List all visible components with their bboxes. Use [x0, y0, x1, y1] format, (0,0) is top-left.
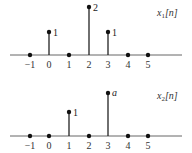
value-label: a	[112, 87, 117, 98]
tick-label: 4	[126, 59, 131, 70]
value-label: 1	[53, 27, 58, 38]
sample-dot	[106, 91, 110, 95]
sample-dot	[47, 134, 51, 138]
tick-label: 5	[146, 140, 151, 151]
tick-label: −1	[25, 59, 36, 70]
value-label: 2	[93, 2, 98, 13]
signals-diagram: 1 2 1 −1 0 1 2 3 4 5 x1[n] 1 a −1 0 1 2 …	[0, 0, 192, 153]
tick-label: 1	[67, 59, 72, 70]
sample-dot	[146, 134, 150, 138]
tick-label: 1	[67, 140, 72, 151]
tick-label: 4	[126, 140, 131, 151]
tick-label: 0	[47, 140, 52, 151]
sample-dot	[126, 134, 130, 138]
sample-dot	[106, 30, 110, 34]
tick-label: 5	[146, 59, 151, 70]
signal-label: x1[n]	[156, 7, 178, 20]
sample-dot	[146, 53, 150, 57]
sample-dot	[28, 53, 32, 57]
sample-dot	[87, 5, 91, 9]
tick-label: 0	[47, 59, 52, 70]
tick-label: 2	[87, 140, 92, 151]
tick-label: 3	[106, 59, 111, 70]
tick-label: −1	[25, 140, 36, 151]
signal-label: x2[n]	[156, 90, 178, 103]
tick-label: 2	[87, 59, 92, 70]
value-label: 1	[73, 107, 78, 118]
sample-dot	[47, 30, 51, 34]
plot-x1: 1 2 1 −1 0 1 2 3 4 5 x1[n]	[10, 2, 182, 70]
tick-label: 3	[106, 140, 111, 151]
sample-dot	[67, 110, 71, 114]
sample-dot	[87, 134, 91, 138]
plot-x2: 1 a −1 0 1 2 3 4 5 x2[n]	[10, 87, 182, 151]
sample-dot	[28, 134, 32, 138]
sample-dot	[67, 53, 71, 57]
value-label: 1	[112, 27, 117, 38]
sample-dot	[126, 53, 130, 57]
